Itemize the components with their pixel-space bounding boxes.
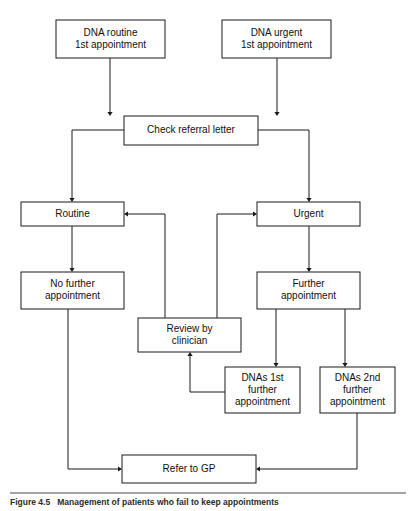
node-label-line-1: DNAs 2nd <box>335 372 381 383</box>
node-label-line-1: Routine <box>55 208 90 219</box>
caption-label: Figure 4.5 <box>10 497 50 507</box>
arrow-head-icon <box>306 198 311 202</box>
flow-edge-e8 <box>217 211 257 318</box>
flowchart-canvas: DNA routine1st appointmentDNA urgent1st … <box>0 0 416 511</box>
node-label-line-1: Check referral letter <box>147 124 235 135</box>
edge-line <box>258 413 357 469</box>
arrow-head-icon <box>253 211 257 216</box>
node-label-line-2: further <box>248 384 278 395</box>
arrow-head-icon <box>107 112 112 116</box>
node-label-line-2: further <box>343 384 373 395</box>
flow-node-further: Furtherappointment <box>257 272 360 309</box>
flow-node-dna_urgent: DNA urgent1st appointment <box>222 20 331 58</box>
flow-edge-e2 <box>274 58 279 116</box>
arrow-head-icon <box>256 466 260 471</box>
flow-edge-e6 <box>306 226 311 272</box>
arrow-head-icon <box>187 352 192 356</box>
node-label-line-1: Further <box>292 278 325 289</box>
flow-edge-e11 <box>187 352 225 392</box>
node-layer: DNA routine1st appointmentDNA urgent1st … <box>21 20 395 483</box>
node-label-line-1: Urgent <box>293 208 323 219</box>
node-label-line-1: Review by <box>166 323 212 334</box>
flow-node-refer_gp: Refer to GP <box>122 455 256 483</box>
flow-node-urgent: Urgent <box>257 202 360 226</box>
arrow-head-icon <box>69 198 74 202</box>
node-label-line-2: appointment <box>45 290 100 301</box>
flow-node-dnas_1st: DNAs 1stfurtherappointment <box>225 367 300 413</box>
arrow-head-icon <box>69 268 74 272</box>
arrow-head-icon <box>273 363 278 367</box>
figure-caption: Figure 4.5 Management of patients who fa… <box>10 497 410 507</box>
arrow-head-icon <box>342 363 347 367</box>
edge-line <box>126 214 165 318</box>
flow-edge-e12 <box>68 309 122 472</box>
flow-edge-e10 <box>342 309 347 367</box>
edge-line <box>190 356 225 392</box>
arrow-head-icon <box>306 268 311 272</box>
arrow-head-icon <box>118 466 122 471</box>
flow-edge-e4 <box>258 130 312 202</box>
flowchart-figure: DNA routine1st appointmentDNA urgent1st … <box>0 0 416 511</box>
node-label-line-3: appointment <box>330 396 385 407</box>
arrow-head-icon <box>124 211 128 216</box>
arrow-head-icon <box>274 112 279 116</box>
flow-edge-e5 <box>69 226 74 272</box>
node-label-line-2: 1st appointment <box>75 39 146 50</box>
caption-text: Management of patients who fail to keep … <box>57 497 279 507</box>
node-label-line-1: DNA routine <box>84 27 138 38</box>
flow-edge-e9 <box>273 309 278 367</box>
edge-line <box>68 309 120 469</box>
node-label-line-2: appointment <box>281 290 336 301</box>
node-label-line-1: DNA urgent <box>251 27 303 38</box>
node-label-line-3: appointment <box>235 396 290 407</box>
flow-edge-e13 <box>256 413 357 472</box>
edge-line <box>258 130 309 200</box>
node-label-line-1: No further <box>50 278 95 289</box>
flow-edge-e3 <box>69 130 124 202</box>
node-label-line-1: Refer to GP <box>163 463 216 474</box>
node-label-line-1: DNAs 1st <box>241 372 283 383</box>
flow-node-routine: Routine <box>21 202 124 226</box>
node-label-line-2: clinician <box>172 335 208 346</box>
flow-node-no_further: No furtherappointment <box>21 272 124 309</box>
flow-edge-e7 <box>124 211 165 318</box>
edge-line <box>217 214 255 318</box>
flow-node-review_clinician: Review byclinician <box>138 318 241 352</box>
flow-node-check_referral: Check referral letter <box>124 116 258 145</box>
edge-line <box>72 130 124 200</box>
flow-node-dnas_2nd: DNAs 2ndfurtherappointment <box>320 367 395 413</box>
flow-node-dna_routine: DNA routine1st appointment <box>56 20 165 58</box>
node-label-line-2: 1st appointment <box>241 39 312 50</box>
flow-edge-e1 <box>107 58 112 116</box>
